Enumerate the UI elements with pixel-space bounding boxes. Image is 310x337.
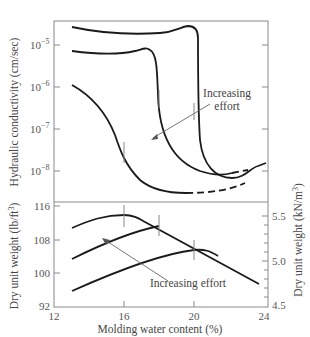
curve-k-high-effort: [72, 85, 186, 193]
curve-gamma-medium-effort: [72, 226, 159, 259]
bottom-annotation-increasing-effort: Increasing effort: [102, 238, 227, 290]
y-tick-108: 108: [34, 234, 51, 246]
y-right-tick-5.0: 5.0: [272, 255, 286, 267]
y-axis-title-hydraulic-conductivity: Hydraulic conductivity (cm/sec): [8, 37, 21, 186]
svg-text:Increasing: Increasing: [203, 87, 251, 100]
y-right-tick-4.5: 4.5: [272, 299, 286, 311]
y-right-tick-5.5: 5.5: [272, 210, 286, 222]
top-annotation-increasing-effort: Increasing effort: [151, 87, 251, 140]
x-tick-16: 16: [119, 310, 131, 322]
curve-gamma-high-effort: [72, 215, 259, 284]
y-tick-1e-7: 10−7: [30, 121, 50, 135]
x-axis-title: Molding water content (%): [98, 323, 223, 336]
plot-frame: [54, 21, 268, 307]
svg-text:Increasing effort: Increasing effort: [150, 277, 227, 290]
curve-k-high-effort-dashed: [186, 183, 245, 193]
bottom-y-axis-right: 5.5 5.0 4.5: [262, 210, 286, 311]
arrow-head-icon: [151, 134, 158, 140]
x-tick-24: 24: [259, 310, 271, 322]
x-axis: 12 16 20 24: [49, 301, 271, 322]
curve-k-medium-effort: [72, 48, 232, 174]
y-tick-1e-8: 10−8: [30, 163, 50, 177]
y-tick-1e-5: 10−5: [30, 37, 50, 51]
y-axis-title-dry-unit-weight-kn: Dry unit weight (kN/m3): [291, 183, 305, 297]
x-tick-12: 12: [49, 310, 60, 322]
compaction-chart: 10−5 10−6 10−7 10−8 Hydraulic conductivi…: [0, 0, 310, 337]
bottom-y-axis-left: 116 108 100 92: [34, 200, 61, 312]
y-tick-116: 116: [34, 200, 51, 212]
x-tick-20: 20: [189, 310, 201, 322]
svg-text:effort: effort: [214, 100, 240, 112]
y-tick-1e-6: 10−6: [30, 79, 50, 93]
y-tick-100: 100: [34, 267, 51, 279]
y-axis-title-dry-unit-weight-lb: Dry unit weight (lb/ft3): [7, 203, 21, 310]
